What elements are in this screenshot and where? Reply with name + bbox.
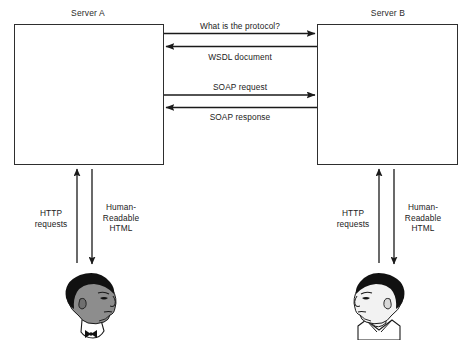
person-left-avatar [52,268,130,340]
diagram-canvas: Server A Server B What is the protocol? … [0,0,469,345]
person-right-avatar [340,268,418,340]
